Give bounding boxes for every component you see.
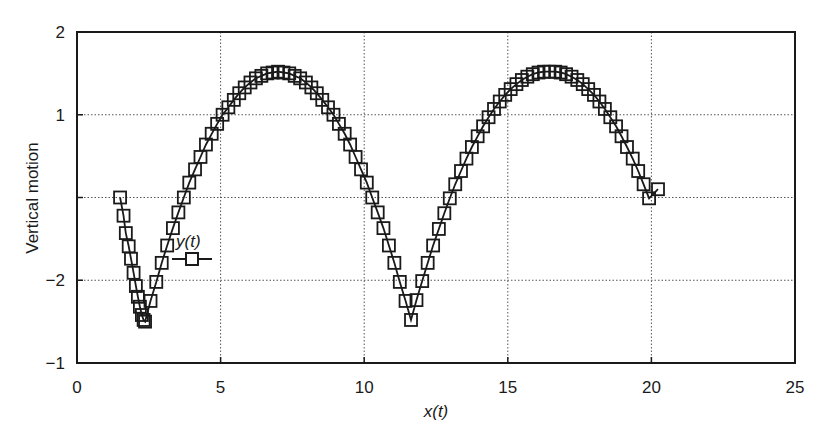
x-tick-label: 0 <box>72 378 81 397</box>
x-tick-label: 15 <box>498 378 517 397</box>
y-tick-label: −1 <box>46 354 65 373</box>
y-tick-label: 1 <box>56 106 65 125</box>
x-tick-label: 10 <box>355 378 374 397</box>
y-tick-label: 2 <box>56 23 65 42</box>
y-axis-label: Vertical motion <box>23 142 42 254</box>
legend-square-marker-icon <box>186 253 198 265</box>
y-tick-label: −2 <box>46 271 65 290</box>
x-tick-label: 5 <box>216 378 225 397</box>
x-tick-label: 25 <box>786 378 805 397</box>
series-y-of-t <box>114 66 664 328</box>
x-axis-label: x(t) <box>423 402 449 421</box>
legend: y(t) <box>172 232 212 265</box>
series-line <box>120 72 658 322</box>
legend-label: y(t) <box>175 232 201 251</box>
chart-figure: 0510152025 −1−212 x(t) Vertical motion y… <box>0 0 825 444</box>
x-tick-label: 20 <box>642 378 661 397</box>
